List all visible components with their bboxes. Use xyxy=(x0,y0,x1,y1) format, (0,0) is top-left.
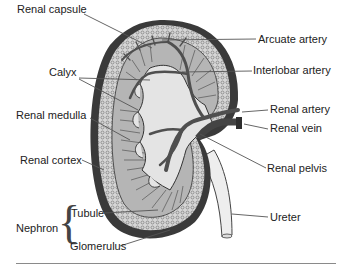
label-renal-artery: Renal artery xyxy=(270,103,330,115)
label-tubule: Tubule xyxy=(71,207,104,219)
bottom-divider xyxy=(16,263,336,264)
label-renal-vein: Renal vein xyxy=(270,122,322,134)
label-arcuate-artery: Arcuate artery xyxy=(258,33,327,45)
label-glomerulus: Glomerulus xyxy=(70,240,126,252)
label-renal-pelvis: Renal pelvis xyxy=(267,162,327,174)
kidney-diagram: Renal capsule Calyx Renal medulla Renal … xyxy=(0,0,338,269)
label-interlobar-artery: Interlobar artery xyxy=(253,64,331,76)
label-ureter: Ureter xyxy=(270,211,301,223)
label-renal-medulla: Renal medulla xyxy=(16,109,86,121)
label-renal-cortex: Renal cortex xyxy=(20,154,82,166)
label-nephron: Nephron xyxy=(16,222,58,234)
label-renal-capsule: Renal capsule xyxy=(17,3,87,15)
label-calyx: Calyx xyxy=(49,66,77,78)
